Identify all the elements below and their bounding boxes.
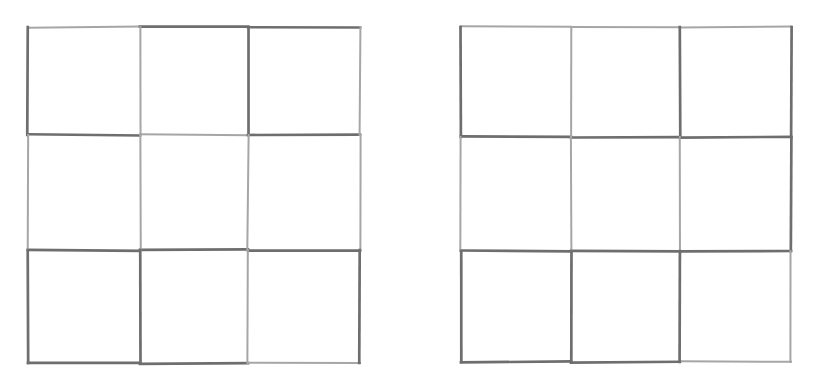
figure-canvas xyxy=(0,0,814,383)
grid-cell-r2-c1[interactable] xyxy=(571,251,680,362)
left-grid-figure xyxy=(22,21,366,369)
grid-cell-r0-c0[interactable] xyxy=(461,27,571,137)
grid-cell-r0-c1[interactable] xyxy=(140,27,248,135)
grid-cell-r1-c0[interactable] xyxy=(28,135,140,250)
grid-cell-r2-c2[interactable] xyxy=(680,251,791,362)
grid-cell-r1-c2[interactable] xyxy=(680,137,791,251)
grid-cell-r1-c2[interactable] xyxy=(248,135,360,250)
grid-line-horizontal xyxy=(140,363,248,364)
right-grid-figure xyxy=(455,21,797,368)
grid-cell-r1-c1[interactable] xyxy=(140,135,248,250)
grid-line-horizontal xyxy=(461,26,571,27)
grid-cell-r0-c0[interactable] xyxy=(28,27,140,135)
grid-cell-r2-c0[interactable] xyxy=(461,251,571,362)
grid-cell-r1-c0[interactable] xyxy=(461,137,571,251)
right-3x3-grid-svg xyxy=(455,21,797,368)
grid-cell-r2-c2[interactable] xyxy=(248,250,360,363)
grid-cell-r2-c0[interactable] xyxy=(28,250,140,363)
grid-cell-r0-c1[interactable] xyxy=(571,27,680,137)
left-3x3-grid-svg xyxy=(22,21,366,369)
grid-cell-r1-c1[interactable] xyxy=(571,137,680,251)
grid-cell-r0-c2[interactable] xyxy=(680,27,791,137)
grid-cell-r2-c1[interactable] xyxy=(140,250,248,363)
grid-cell-r0-c2[interactable] xyxy=(248,27,360,135)
